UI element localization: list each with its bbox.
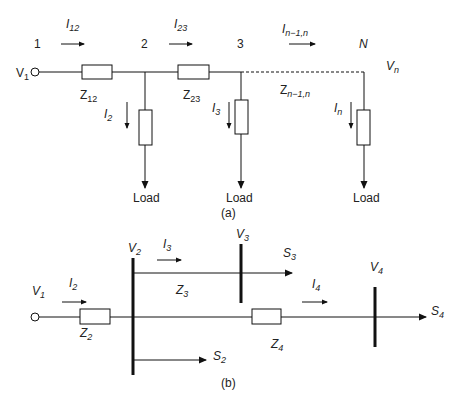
source-terminal-b-icon bbox=[31, 313, 39, 321]
current-label-i2: I2 bbox=[104, 107, 112, 123]
load-impedance-3-icon bbox=[235, 100, 248, 134]
bus-voltage-v3: V3 bbox=[236, 227, 249, 243]
current-label-in-1n: In−1,n bbox=[282, 22, 308, 38]
caption-b: (b) bbox=[221, 376, 236, 390]
power-label-s4: S4 bbox=[431, 304, 444, 320]
impedance-z12-icon bbox=[82, 65, 112, 79]
impedance-label-zn-1n: Zn−1,n bbox=[280, 83, 310, 99]
diagram-a: 1 2 3 N I12 I23 In−1,n V1 Z12 Z23 Zn−1,n… bbox=[16, 17, 399, 220]
power-label-s3: S3 bbox=[283, 246, 296, 262]
power-label-s2: S2 bbox=[213, 349, 226, 365]
node-label-n: N bbox=[359, 37, 368, 51]
impedance-label-z3: Z3 bbox=[175, 283, 188, 299]
diagram-b: V1 I2 Z2 Z4 V2 I3 Z3 V3 S3 I4 V4 S4 bbox=[31, 227, 444, 390]
current-label-i3: I3 bbox=[212, 101, 220, 117]
current-label-i4: I4 bbox=[312, 277, 320, 293]
impedance-label-z12: Z12 bbox=[80, 88, 97, 104]
source-voltage-v1-a: V1 bbox=[16, 66, 29, 82]
radial-feeder-diagram: 1 2 3 N I12 I23 In−1,n V1 Z12 Z23 Zn−1,n… bbox=[0, 0, 457, 401]
bus-voltage-v2: V2 bbox=[128, 241, 141, 257]
current-label-i2-b: I2 bbox=[69, 276, 77, 292]
load-impedance-n-icon bbox=[357, 110, 370, 145]
node-label-2: 2 bbox=[141, 37, 148, 51]
impedance-label-z23: Z23 bbox=[183, 88, 200, 104]
load-label-3: Load bbox=[226, 191, 253, 205]
load-label-2: Load bbox=[133, 191, 160, 205]
impedance-label-z2: Z2 bbox=[79, 326, 92, 342]
node-label-1: 1 bbox=[34, 37, 41, 51]
current-label-i12: I12 bbox=[66, 17, 79, 33]
load-label-n: Load bbox=[353, 191, 380, 205]
bus-voltage-v4: V4 bbox=[370, 260, 383, 276]
caption-a: (a) bbox=[221, 206, 236, 220]
impedance-z4-icon bbox=[252, 309, 281, 324]
current-label-i23: I23 bbox=[174, 17, 187, 33]
load-impedance-2-icon bbox=[139, 110, 152, 145]
impedance-z23-icon bbox=[178, 65, 209, 79]
end-voltage-vn: Vn bbox=[386, 59, 399, 75]
source-voltage-v1-b: V1 bbox=[32, 284, 45, 300]
current-label-i3-b: I3 bbox=[163, 237, 171, 253]
impedance-label-z4: Z4 bbox=[270, 337, 283, 353]
current-label-in: In bbox=[334, 101, 342, 117]
impedance-z2-icon bbox=[80, 309, 110, 324]
source-terminal-icon bbox=[31, 68, 39, 76]
node-label-3: 3 bbox=[237, 37, 244, 51]
